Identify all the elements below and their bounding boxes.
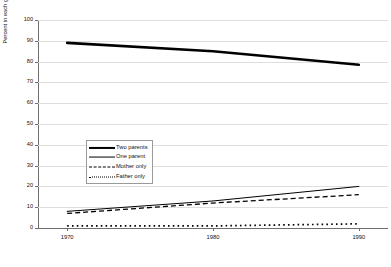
- y-tick-label: 30: [27, 163, 33, 169]
- y-tick-label: 10: [27, 204, 33, 210]
- legend-swatch-one-parent: [89, 153, 115, 162]
- series-lines: [38, 20, 388, 228]
- y-tick-label: 40: [27, 142, 33, 148]
- y-tick-label: 60: [27, 100, 33, 106]
- x-tick-mark: [213, 228, 214, 231]
- y-axis-title: Percent in each group: [2, 0, 12, 149]
- plot-area: 0102030405060708090100 197019801990: [38, 20, 388, 228]
- x-tick-label: 1990: [352, 235, 365, 241]
- y-tick-label: 0: [30, 225, 33, 231]
- legend-item-mother-only: Mother only: [89, 162, 148, 172]
- legend-item-two-parents: Two parents: [89, 143, 148, 153]
- series-line-two-parents: [67, 43, 359, 65]
- series-line-father-only: [67, 224, 359, 226]
- y-tick-label: 90: [27, 38, 33, 44]
- legend-label-mother-only: Mother only: [115, 164, 146, 170]
- legend-item-father-only: Father only: [89, 172, 148, 182]
- y-tick-label: 80: [27, 59, 33, 65]
- legend-label-two-parents: Two parents: [115, 145, 148, 151]
- x-tick-label: 1970: [61, 235, 74, 241]
- series-line-mother-only: [67, 195, 359, 214]
- y-tick-label: 70: [27, 80, 33, 86]
- y-tick-label: 50: [27, 121, 33, 127]
- y-tick-label: 20: [27, 184, 33, 190]
- legend-swatch-two-parents: [89, 143, 115, 152]
- legend-item-one-parent: One parent: [89, 153, 148, 163]
- series-line-one-parent: [67, 186, 359, 211]
- x-tick-mark: [359, 228, 360, 231]
- legend-label-father-only: Father only: [115, 174, 145, 180]
- y-tick-mark: [35, 228, 38, 229]
- legend-swatch-father-only: [89, 172, 115, 181]
- x-tick-mark: [67, 228, 68, 231]
- x-tick-label: 1980: [207, 235, 220, 241]
- legend-label-one-parent: One parent: [115, 154, 145, 160]
- y-tick-label: 100: [24, 17, 33, 23]
- chart-legend: Two parents One parent Mother only Fathe…: [86, 140, 153, 184]
- legend-swatch-mother-only: [89, 162, 115, 171]
- line-chart: Percent in each group 010203040506070809…: [0, 0, 391, 267]
